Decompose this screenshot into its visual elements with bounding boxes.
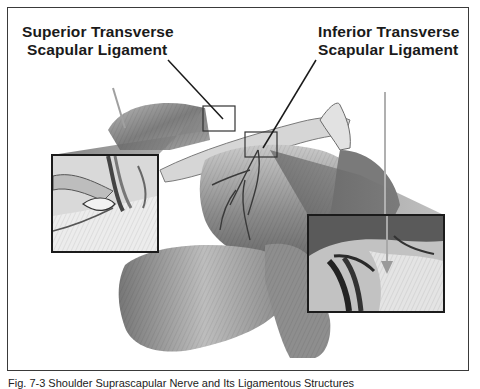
inferior-label-line1: Inferior Transverse	[318, 23, 459, 41]
right-inset-detail	[309, 216, 443, 311]
right-inset	[307, 214, 445, 313]
left-inset	[51, 154, 159, 253]
left-inset-detail	[53, 156, 157, 251]
superior-transverse-scapular-ligament-label: Superior Transverse Scapular Ligament	[22, 23, 174, 59]
inferior-label-line2: Scapular Ligament	[318, 41, 459, 59]
figure-caption: Fig. 7-3 Shoulder Suprascapular Nerve an…	[8, 377, 354, 389]
inferior-transverse-scapular-ligament-label: Inferior Transverse Scapular Ligament	[318, 23, 459, 59]
superior-label-line2: Scapular Ligament	[22, 41, 174, 59]
acromion	[320, 103, 350, 150]
superior-label-line1: Superior Transverse	[22, 23, 174, 41]
upper-arm-muscle	[119, 245, 291, 352]
